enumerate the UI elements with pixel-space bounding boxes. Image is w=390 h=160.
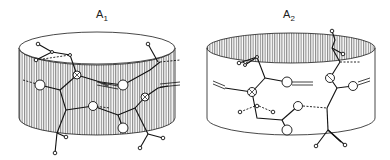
- cylinder-diagram-a2: [195, 0, 390, 160]
- panel-a2: A2: [195, 0, 390, 160]
- cylinder-diagram-a1: [0, 0, 195, 160]
- panel-a1: A1: [0, 0, 195, 160]
